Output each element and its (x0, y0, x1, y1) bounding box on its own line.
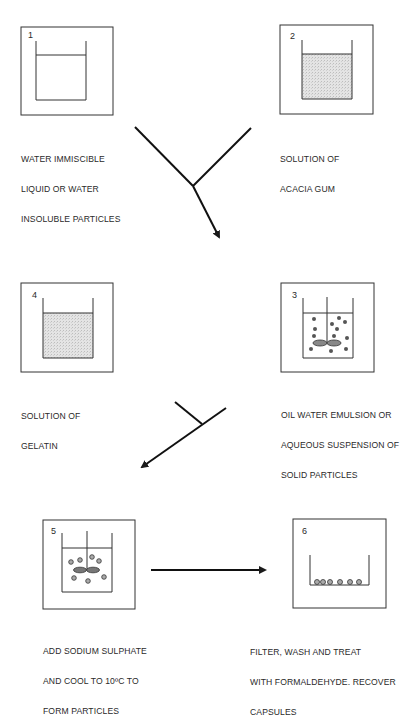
step-2-caption: SOLUTION OF ACACIA GUM (280, 134, 339, 204)
step-6-caption: FILTER, WASH AND TREAT WITH FORMALDEHYDE… (250, 627, 396, 719)
step-5-panel: 5 (43, 520, 135, 609)
caption-line: CAPSULES (250, 707, 396, 717)
caption-line: LIQUID OR WATER (21, 184, 121, 194)
caption-line: AND COOL TO 10ºC TO (43, 676, 147, 686)
capsules (315, 580, 362, 585)
step-1-number: 1 (28, 30, 33, 40)
caption-line: OIL WATER EMULSION OR (281, 410, 399, 420)
step-5-frame (43, 520, 135, 609)
step-5-number: 5 (51, 526, 56, 536)
caption-line: ADD SODIUM SULPHATE (43, 646, 147, 656)
step-4-caption: SOLUTION OF GELATIN (21, 391, 80, 461)
step-4-number: 4 (32, 290, 37, 300)
caption-line: INSOLUBLE PARTICLES (21, 214, 121, 224)
step-1-panel: 1 (21, 27, 113, 115)
beaker-shaded-icon (302, 40, 352, 99)
beaker-stirrer-icon (303, 297, 353, 358)
merge-arrow-1 (135, 127, 251, 237)
step-3-caption: OIL WATER EMULSION OR AQUEOUS SUSPENSION… (281, 390, 399, 490)
beaker-empty-icon (36, 41, 86, 100)
caption-line: ACACIA GUM (280, 184, 339, 194)
caption-line: FORM PARTICLES (43, 706, 147, 716)
caption-line: SOLUTION OF (280, 154, 339, 164)
caption-line: AQUEOUS SUSPENSION OF (281, 440, 399, 450)
particles (309, 316, 349, 353)
step-6-panel: 6 (293, 519, 386, 608)
caption-line: WITH FORMALDEHYDE. RECOVER (250, 677, 396, 687)
caption-line: FILTER, WASH AND TREAT (250, 647, 396, 657)
caption-line: GELATIN (21, 441, 80, 451)
step-2-panel: 2 (280, 25, 373, 114)
beaker-shaded-icon (43, 298, 93, 358)
caption-line: WATER IMMISCIBLE (21, 154, 121, 164)
step-4-panel: 4 (21, 283, 113, 372)
step-1-caption: WATER IMMISCIBLE LIQUID OR WATER INSOLUB… (21, 134, 121, 234)
caption-line: SOLID PARTICLES (281, 470, 399, 480)
step-1-frame (21, 27, 113, 115)
step-3-panel: 3 (281, 283, 374, 372)
beaker-stirrer-icon (62, 531, 112, 592)
step-5-caption: ADD SODIUM SULPHATE AND COOL TO 10ºC TO … (43, 626, 147, 719)
step-2-number: 2 (290, 31, 295, 41)
caption-line: SOLUTION OF (21, 411, 80, 421)
step-3-number: 3 (292, 290, 297, 300)
merge-arrow-2 (142, 402, 226, 467)
filter-capsules-icon (310, 555, 369, 585)
step-6-number: 6 (302, 526, 307, 536)
